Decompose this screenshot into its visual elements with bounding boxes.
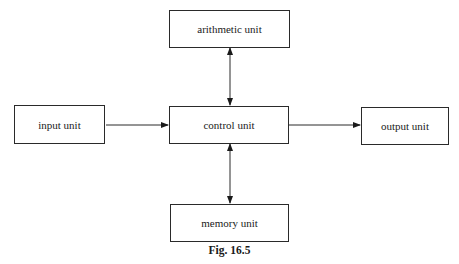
arithmetic-unit-box: arithmetic unit bbox=[169, 10, 290, 48]
memory-unit-label: memory unit bbox=[201, 217, 258, 229]
input-unit-box: input unit bbox=[14, 105, 105, 144]
memory-unit-box: memory unit bbox=[170, 204, 289, 242]
figure-caption: Fig. 16.5 bbox=[0, 244, 459, 256]
control-unit-box: control unit bbox=[169, 106, 289, 144]
arithmetic-unit-label: arithmetic unit bbox=[197, 23, 261, 35]
input-unit-label: input unit bbox=[38, 119, 80, 131]
output-unit-label: output unit bbox=[381, 120, 429, 132]
control-unit-label: control unit bbox=[203, 119, 254, 131]
output-unit-box: output unit bbox=[361, 107, 449, 145]
